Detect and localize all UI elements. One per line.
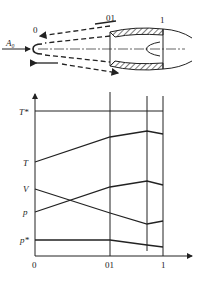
- line-pstar: [35, 240, 163, 247]
- x-label-1: 1: [161, 260, 166, 270]
- y-label-pstar: p*: [19, 235, 30, 245]
- x-label-01: 01: [105, 260, 114, 270]
- plot-axes: [35, 92, 192, 256]
- y-label-p: p: [22, 207, 28, 217]
- station-1-label: 1: [160, 15, 165, 25]
- y-label-T: T: [23, 158, 29, 168]
- station-01-label: 01: [106, 13, 115, 23]
- y-label-Tstar: T*: [19, 107, 29, 117]
- inflow-label: A₀: [5, 38, 15, 48]
- intake-schematic: [2, 21, 192, 73]
- line-p: [35, 181, 163, 212]
- diagram: 0 01 1 A₀ T* T V p p* 0 01 1: [0, 0, 208, 281]
- line-V: [35, 189, 163, 224]
- plot-curves: [35, 111, 163, 247]
- x-label-0: 0: [32, 260, 37, 270]
- y-label-V: V: [23, 184, 30, 194]
- line-T: [35, 131, 163, 162]
- station-0-label: 0: [33, 25, 38, 35]
